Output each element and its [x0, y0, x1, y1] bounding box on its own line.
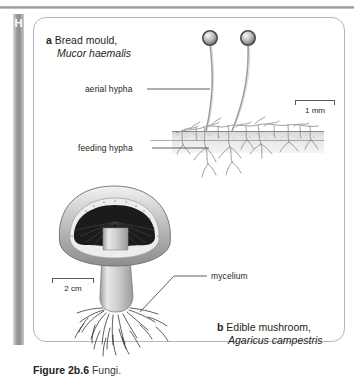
label-mycelium: mycelium: [211, 271, 248, 281]
margin-tab-letter: H: [13, 16, 24, 30]
panel-b-heading: b Edible mushroom, Agaricus campestris: [217, 321, 323, 347]
panel-b-common-name: Edible mushroom,: [226, 321, 311, 333]
label-aerial-hypha: aerial hypha: [85, 84, 133, 94]
scale-bar-1mm-label: 1 mm: [295, 106, 335, 115]
figure-caption-number: Figure 2b.6: [33, 364, 89, 376]
panel-b-species: Agaricus campestris: [228, 334, 323, 347]
figure-caption-text: Fungi.: [92, 364, 121, 376]
scale-bar-2cm-label: 2 cm: [52, 284, 94, 293]
scale-bar-2cm: 2 cm: [52, 278, 94, 293]
panel-a-marker: a: [46, 34, 52, 46]
panel-a-heading: a Bread mould, Mucor haemalis: [46, 34, 131, 60]
margin-tab: H: [13, 14, 24, 345]
figure-caption: Figure 2b.6 Fungi.: [33, 364, 121, 376]
scale-bar-1mm: 1 mm: [295, 100, 335, 115]
figure-panel: [33, 17, 345, 342]
panel-a-common-name: Bread mould,: [55, 34, 117, 46]
label-feeding-hypha: feeding hypha: [78, 143, 133, 153]
scale-bar-2cm-rule: [52, 278, 94, 283]
page-top-rule: [0, 6, 354, 9]
scale-bar-1mm-rule: [295, 100, 335, 105]
panel-a-species: Mucor haemalis: [57, 47, 131, 60]
panel-b-marker: b: [217, 321, 223, 333]
